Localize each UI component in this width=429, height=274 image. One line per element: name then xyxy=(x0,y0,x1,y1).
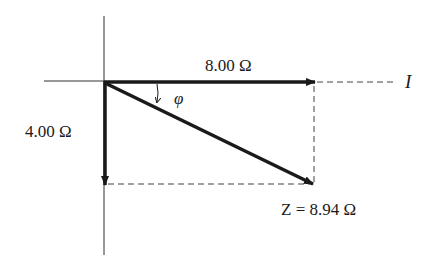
resistance-label: 8.00 Ω xyxy=(205,56,252,75)
phasor-diagram: 8.00 Ω 4.00 Ω I φ Z = 8.94 Ω xyxy=(0,0,429,274)
angle-arc-arrow xyxy=(157,84,158,102)
current-axis-label: I xyxy=(404,71,413,92)
reactance-label: 4.00 Ω xyxy=(25,122,72,141)
impedance-label: Z = 8.94 Ω xyxy=(281,200,356,219)
impedance-vector-arrow xyxy=(105,83,313,184)
angle-phi-label: φ xyxy=(174,89,183,108)
